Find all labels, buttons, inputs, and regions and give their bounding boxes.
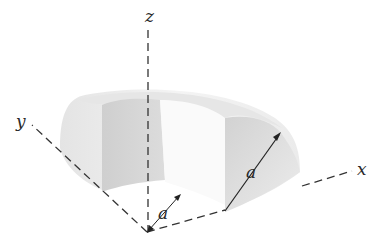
inner-surface (102, 99, 165, 192)
z-axis-label: z (144, 6, 155, 26)
x-axis-label: x (357, 159, 367, 179)
x-axis-far (302, 171, 352, 186)
shell-diagram: z y x a a (0, 0, 375, 249)
inner-hollow (160, 100, 225, 205)
y-axis-label: y (15, 111, 26, 131)
radius-label: a (158, 203, 168, 223)
thickness-label: a (246, 162, 256, 182)
